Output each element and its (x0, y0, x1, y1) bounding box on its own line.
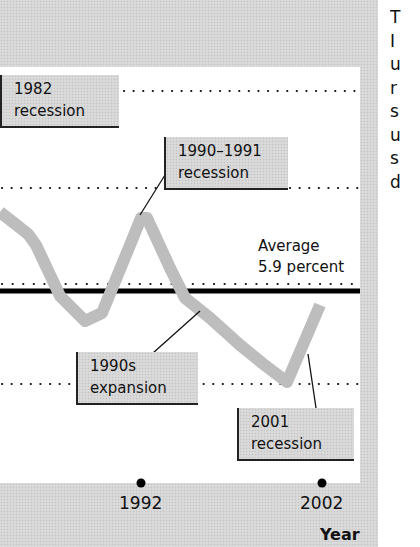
leader-line-1990 (140, 175, 165, 215)
annotation-line-2: recession (14, 100, 111, 122)
annotation-line-1: 1990s (90, 355, 190, 377)
average-label: Average 5.9 percent (258, 236, 344, 278)
annotation-line-2: recession (251, 433, 346, 455)
side-text-line: u (390, 124, 420, 148)
tick-dot-2002 (318, 479, 327, 488)
annotation-line-1: 1982 (14, 78, 111, 100)
annotation-1982-recession: 1982 recession (0, 75, 119, 128)
side-text-line: T (390, 6, 420, 30)
annotation-line-1: 2001 (251, 411, 346, 433)
side-text-line: d (390, 171, 420, 195)
tick-dot-1992 (137, 479, 146, 488)
x-tick-1992: 1992 (119, 493, 162, 513)
x-axis-title: Year (320, 525, 360, 544)
average-label-line-1: Average (258, 236, 344, 257)
annotation-line-2: recession (178, 162, 280, 184)
side-text-line: u (390, 53, 420, 77)
side-text-line: r (390, 77, 420, 101)
side-text-line: s (390, 147, 420, 171)
annotation-line-2: expansion (90, 377, 190, 399)
average-label-line-2: 5.9 percent (258, 257, 344, 278)
leader-line-1990s (153, 311, 200, 353)
side-text-column: T I u r s u s d (390, 6, 420, 194)
annotation-line-1: 1990–1991 (178, 140, 280, 162)
side-text-line: I (390, 30, 420, 54)
leader-line-2001 (308, 354, 316, 408)
x-tick-2002: 2002 (300, 493, 343, 513)
annotation-2001-recession: 2001 recession (237, 408, 354, 461)
annotation-1990s-expansion: 1990s expansion (76, 352, 198, 405)
annotation-1990-1991-recession: 1990–1991 recession (164, 137, 288, 190)
side-text-line: s (390, 100, 420, 124)
